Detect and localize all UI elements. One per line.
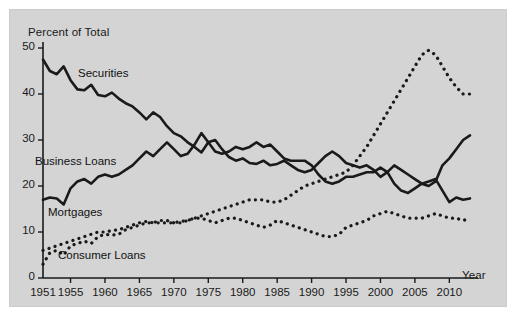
x-axis-title: Year: [462, 269, 486, 281]
y-tick-label: 40: [10, 86, 35, 98]
y-axis-title: Percent of Total: [28, 26, 109, 38]
y-tick-label: 10: [10, 224, 35, 236]
series-line: [43, 50, 470, 250]
series-label-business-loans: Business Loans: [35, 155, 116, 167]
series-label-securities: Securities: [78, 67, 129, 79]
y-tick-label: 50: [10, 40, 35, 52]
y-tick-label: 0: [10, 270, 35, 282]
series-line: [43, 133, 470, 204]
series-label-consumer-loans: Consumer Loans: [58, 249, 146, 261]
x-tick-label: 2010: [429, 286, 469, 298]
chart-panel: Percent of Total Year 01020304050 195119…: [10, 10, 506, 306]
figure: Percent of Total Year 01020304050 195119…: [0, 0, 516, 323]
y-tick-label: 20: [10, 178, 35, 190]
y-tick-label: 30: [10, 132, 35, 144]
series-label-mortgages: Mortgages: [48, 206, 102, 218]
